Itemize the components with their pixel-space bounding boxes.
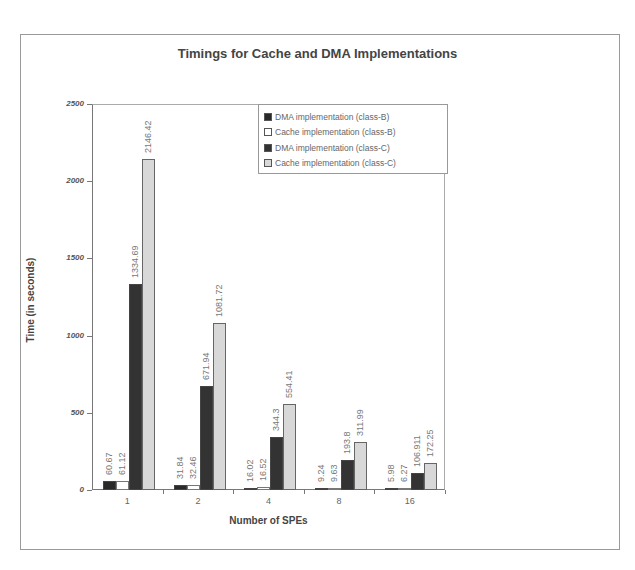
value-label: 61.12 [117, 452, 127, 475]
bar [142, 159, 155, 490]
value-label: 193.8 [342, 432, 352, 455]
bar [200, 386, 213, 490]
value-label: 60.67 [104, 452, 114, 475]
bar [257, 487, 270, 490]
y-axis-label: Time (in seconds) [25, 258, 36, 343]
legend-swatch-icon [264, 128, 272, 136]
legend-swatch-icon [264, 144, 272, 152]
chart-title: Timings for Cache and DMA Implementation… [0, 46, 635, 61]
value-label: 2146.42 [143, 120, 153, 153]
y-tick-label: 2000 [44, 176, 84, 185]
bar [213, 323, 226, 490]
legend-swatch-icon [264, 159, 272, 167]
value-label: 9.63 [329, 464, 339, 482]
bar [283, 404, 296, 490]
x-tick-label: 4 [249, 496, 289, 506]
legend: DMA implementation (class-B) Cache imple… [258, 104, 448, 174]
x-axis-label: Number of SPEs [92, 515, 445, 526]
x-tick-label: 16 [390, 496, 430, 506]
value-label: 16.02 [245, 459, 255, 482]
legend-item: DMA implementation (class-C) [264, 140, 442, 156]
bar [129, 284, 142, 490]
bar [315, 488, 328, 490]
bar [270, 437, 283, 490]
y-tick-label: 0 [44, 485, 84, 494]
legend-label: Cache implementation (class-B) [275, 127, 395, 137]
y-tick-label: 500 [44, 408, 84, 417]
value-label: 32.46 [188, 456, 198, 479]
legend-label: DMA implementation (class-B) [275, 112, 389, 122]
x-tick-mark [233, 490, 234, 494]
x-tick-mark [163, 490, 164, 494]
legend-item: DMA implementation (class-B) [264, 109, 442, 125]
bar [116, 481, 129, 490]
legend-item: Cache implementation (class-C) [264, 156, 442, 172]
x-tick-label: 8 [319, 496, 359, 506]
value-label: 9.24 [316, 464, 326, 482]
x-tick-label: 2 [178, 496, 218, 506]
legend-label: Cache implementation (class-C) [275, 158, 396, 168]
y-tick-label: 1500 [44, 253, 84, 262]
bar [398, 488, 411, 490]
value-label: 554.41 [284, 371, 294, 399]
value-label: 1081.72 [214, 284, 224, 317]
y-tick-mark [87, 336, 92, 337]
x-tick-mark [445, 490, 446, 494]
bar [424, 463, 437, 490]
bar [187, 485, 200, 490]
bar [354, 442, 367, 490]
x-tick-mark [374, 490, 375, 494]
y-tick-mark [87, 104, 92, 105]
bar [385, 488, 398, 490]
y-tick-mark [87, 181, 92, 182]
value-label: 5.98 [386, 464, 396, 482]
legend-swatch-icon [264, 113, 272, 121]
y-tick-label: 2500 [44, 99, 84, 108]
x-tick-label: 1 [107, 496, 147, 506]
y-tick-mark [87, 258, 92, 259]
legend-label: DMA implementation (class-C) [275, 143, 390, 153]
value-label: 311.99 [355, 409, 365, 436]
y-tick-mark [87, 490, 92, 491]
value-label: 172.25 [425, 430, 435, 458]
value-label: 6.27 [399, 464, 409, 482]
bar [103, 481, 116, 490]
x-tick-mark [304, 490, 305, 494]
bar [174, 485, 187, 490]
value-label: 106.911 [412, 436, 422, 468]
value-label: 344.3 [271, 408, 281, 431]
y-tick-mark [87, 413, 92, 414]
bar [411, 473, 424, 490]
bar [341, 460, 354, 490]
bar [328, 488, 341, 490]
value-label: 671.94 [201, 353, 211, 381]
y-tick-label: 1000 [44, 331, 84, 340]
value-label: 31.84 [175, 457, 185, 480]
bar [244, 488, 257, 490]
value-label: 16.52 [258, 459, 268, 482]
legend-item: Cache implementation (class-B) [264, 125, 442, 141]
value-label: 1334.69 [130, 245, 140, 278]
